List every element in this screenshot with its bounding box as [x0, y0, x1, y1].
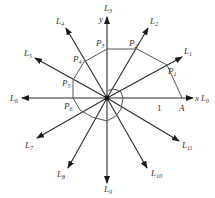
label-l10: L10: [150, 168, 162, 179]
label-l9: L9: [103, 184, 112, 195]
spiral-rays-diagram: L0 L1 L2 L3 L4 L5 L6 L7 L8 L9 L10 L11 x …: [0, 0, 215, 198]
label-p5: P5: [61, 78, 71, 89]
label-p3: P3: [95, 38, 105, 49]
ray-l2: [107, 28, 148, 98]
ray-l8: [68, 98, 107, 168]
unit-length-label: 1: [157, 103, 162, 113]
origin-point: [105, 96, 110, 101]
label-l1: L1: [183, 46, 192, 57]
label-p2: P2: [128, 38, 138, 49]
label-p1: P1: [167, 66, 177, 77]
label-l3: L3: [103, 3, 112, 14]
label-l6: L6: [9, 93, 18, 104]
ray-l11: [107, 98, 179, 141]
ray-l1: [107, 57, 182, 98]
ray-l10: [107, 98, 147, 168]
label-p6: P6: [63, 101, 73, 112]
label-l7: L7: [24, 140, 34, 151]
label-l4: L4: [55, 16, 64, 27]
ray-l5: [35, 58, 107, 98]
label-l5: L5: [23, 48, 32, 59]
label-l8: L8: [56, 169, 65, 180]
label-l11: L11: [181, 140, 193, 151]
y-axis-label: y: [98, 14, 103, 24]
label-p4: P4: [72, 54, 82, 65]
label-l2: L2: [149, 16, 158, 27]
point-a-label: A: [178, 103, 185, 113]
label-l0: L0: [200, 93, 209, 104]
x-axis-label: x: [194, 93, 199, 103]
